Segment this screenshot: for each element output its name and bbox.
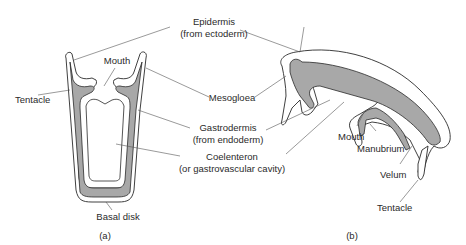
label-gastrodermis-line1: Gastrodermis <box>199 122 256 133</box>
label-epidermis-line2: (from ectoderm) <box>180 28 248 39</box>
leader-manubrium <box>370 124 376 131</box>
label-velum: Velum <box>380 169 406 180</box>
label-coelenteron-line2: (or gastrovascular cavity) <box>179 163 285 174</box>
label-mouth-b: Mouth <box>338 131 364 142</box>
leader-gastrodermis-b <box>266 100 330 130</box>
label-gastrodermis-line2: (from endoderm) <box>193 134 264 145</box>
polyp-coelenteron <box>86 99 124 181</box>
label-epidermis-line1: Epidermis <box>193 16 235 27</box>
leader-basal-disk <box>106 202 112 210</box>
leader-mesogloea-b <box>255 76 286 97</box>
leader-coelenteron-a <box>116 144 180 156</box>
leader-gastrodermis-a <box>138 110 190 128</box>
leader-mesogloea-a <box>146 68 209 97</box>
label-coelenteron-line1: Coelenteron <box>206 151 258 162</box>
polyp-drawing <box>66 52 147 202</box>
label-mesogloea: Mesogloea <box>209 92 256 103</box>
cnidarian-body-plan-diagram: Epidermis (from ectoderm) Mouth Tentacle… <box>0 0 466 245</box>
label-mouth-a: Mouth <box>104 55 130 66</box>
caption-panel-a: (a) <box>99 230 111 241</box>
leader-epidermis-b <box>300 27 304 52</box>
leader-coelenteron-b <box>286 102 344 154</box>
medusa-drawing <box>281 50 450 180</box>
caption-panel-b: (b) <box>346 230 358 241</box>
label-basal-disk: Basal disk <box>96 211 140 222</box>
leader-epidermis-b2 <box>240 30 300 52</box>
label-manubrium: Manubrium <box>357 143 405 154</box>
leader-tentacle-b <box>400 180 418 202</box>
label-tentacle-b: Tentacle <box>377 202 412 213</box>
label-tentacle-a: Tentacle <box>15 94 50 105</box>
